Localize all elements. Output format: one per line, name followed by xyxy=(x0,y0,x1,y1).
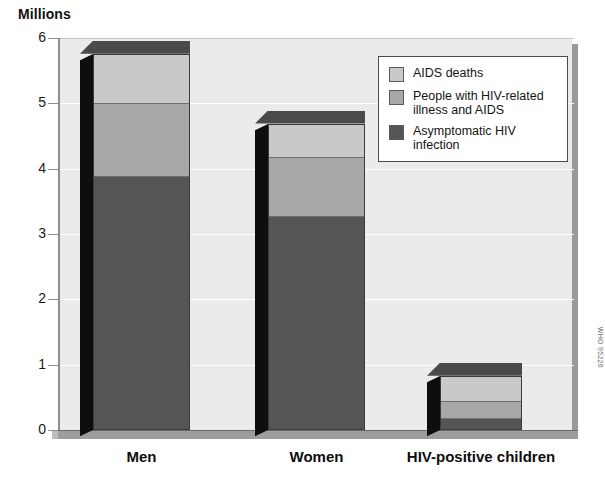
legend-label: Asymptomatic HIV infection xyxy=(413,124,555,152)
y-tick-label: 1 xyxy=(10,356,46,372)
y-tick-label: 5 xyxy=(10,94,46,110)
y-tick-mark xyxy=(48,38,58,39)
y-tick-label: 2 xyxy=(10,290,46,306)
segment-divider xyxy=(440,418,522,419)
bar-hiv-positive-children xyxy=(440,376,522,430)
chart-figure: Millions 0123456 MenWomenHIV-positive ch… xyxy=(0,0,605,484)
y-tick-mark xyxy=(48,234,58,235)
category-label: Men xyxy=(43,448,240,465)
legend-item: Asymptomatic HIV infection xyxy=(389,124,555,152)
bar-segment xyxy=(93,103,190,176)
gridline xyxy=(60,38,574,39)
bar-segment xyxy=(440,418,522,430)
light-gray-swatch xyxy=(389,67,404,82)
segment-divider xyxy=(93,103,190,104)
y-axis-title: Millions xyxy=(18,6,71,22)
legend-item: AIDS deaths xyxy=(389,66,555,82)
y-tick-mark xyxy=(48,365,58,366)
bar-segment xyxy=(268,216,365,430)
segment-divider xyxy=(93,176,190,177)
plot-floor xyxy=(58,430,578,439)
segment-divider xyxy=(268,216,365,217)
bar-top-face xyxy=(427,363,522,376)
bar-segment xyxy=(93,176,190,429)
plot-floor-front xyxy=(52,430,58,439)
legend-label: People with HIV-related illness and AIDS xyxy=(413,89,544,117)
y-tick-label: 0 xyxy=(10,421,46,437)
bar-men xyxy=(93,54,190,430)
bar-side-face xyxy=(80,54,93,437)
segment-divider xyxy=(268,157,365,158)
medium-gray-swatch xyxy=(389,90,404,105)
legend-label: AIDS deaths xyxy=(413,66,483,80)
bar-segment xyxy=(268,124,365,157)
y-tick-mark xyxy=(48,169,58,170)
legend-item: People with HIV-related illness and AIDS xyxy=(389,89,555,117)
y-tick-label: 6 xyxy=(10,29,46,45)
dark-gray-swatch xyxy=(389,125,404,140)
category-label: Women xyxy=(218,448,415,465)
y-tick-label: 4 xyxy=(10,160,46,176)
bar-side-face xyxy=(255,124,268,437)
bar-top-face xyxy=(255,111,365,124)
y-tick-mark xyxy=(48,103,58,104)
bar-segment xyxy=(440,401,522,418)
legend: AIDS deathsPeople with HIV-related illne… xyxy=(378,56,568,162)
y-tick-mark xyxy=(48,430,58,431)
y-tick-mark xyxy=(48,299,58,300)
y-tick-label: 3 xyxy=(10,225,46,241)
credit-text: WHO 95226 xyxy=(597,327,604,368)
bar-women xyxy=(268,124,365,430)
bar-segment xyxy=(440,376,522,401)
category-label: HIV-positive children xyxy=(390,448,572,465)
bar-side-face xyxy=(427,376,440,437)
segment-divider xyxy=(440,401,522,402)
bar-segment xyxy=(93,54,190,104)
bar-segment xyxy=(268,157,365,216)
bar-top-face xyxy=(80,41,190,54)
